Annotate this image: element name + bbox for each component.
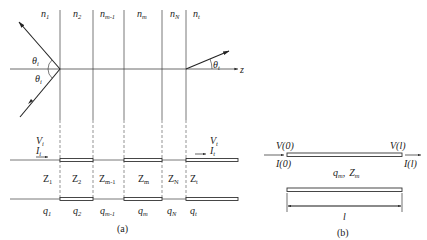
caption-a: (a) bbox=[117, 223, 128, 235]
svg-text:q1: q1 bbox=[43, 205, 51, 217]
diagram-canvas: z θi θi θt n1 n2 nm-1 nm nN nt bbox=[0, 0, 427, 240]
b-right-voltage: V(l) bbox=[390, 140, 406, 152]
svg-text:nt: nt bbox=[193, 8, 200, 20]
transmitted-ray bbox=[186, 51, 229, 69]
svg-text:qN: qN bbox=[167, 205, 177, 217]
z-axis-label: z bbox=[239, 64, 244, 75]
b-length-dimension bbox=[287, 193, 402, 212]
b-bottom-conductor bbox=[287, 188, 402, 192]
input-current-label: Ii bbox=[35, 145, 41, 157]
svg-text:Z1: Z1 bbox=[43, 173, 52, 185]
svg-text:nN: nN bbox=[170, 8, 180, 20]
incident-ray bbox=[20, 69, 60, 117]
svg-text:qm: qm bbox=[138, 205, 148, 217]
theta-transmitted-label: θt bbox=[213, 59, 220, 71]
b-left-voltage: V(0) bbox=[276, 140, 294, 152]
angle-arc-reflected bbox=[48, 60, 52, 69]
angle-arc-incident bbox=[48, 69, 52, 78]
refractive-index-labels: n1 n2 nm-1 nm nN nt bbox=[41, 8, 200, 20]
svg-text:ZN: ZN bbox=[168, 173, 179, 185]
svg-text:qt: qt bbox=[190, 205, 197, 217]
b-section-params: qm,Zm bbox=[333, 167, 360, 179]
thin-line-sections bbox=[10, 160, 186, 199]
svg-text:nm: nm bbox=[137, 8, 147, 20]
svg-text:qm-1: qm-1 bbox=[100, 205, 115, 217]
b-top-conductor bbox=[287, 153, 402, 157]
b-left-current: I(0) bbox=[275, 158, 292, 170]
svg-text:n2: n2 bbox=[73, 8, 82, 20]
reflected-ray bbox=[19, 22, 60, 69]
svg-text:Zt: Zt bbox=[190, 173, 198, 185]
theta-reflected-label: θi bbox=[32, 55, 39, 67]
svg-text:nm-1: nm-1 bbox=[100, 8, 115, 20]
b-right-current: I(l) bbox=[403, 158, 417, 170]
svg-text:q2: q2 bbox=[73, 205, 82, 217]
theta-incident-label: θi bbox=[35, 73, 42, 85]
svg-text:n1: n1 bbox=[41, 8, 49, 20]
layer-boundaries bbox=[60, 10, 186, 120]
caption-b: (b) bbox=[337, 227, 349, 239]
output-current-label: It bbox=[209, 145, 215, 157]
svg-text:Zm-1: Zm-1 bbox=[99, 173, 116, 185]
b-length-label: l bbox=[343, 211, 346, 222]
svg-text:Zm: Zm bbox=[138, 173, 149, 185]
propagation-constant-labels: q1 q2 qm-1 qm qN qt bbox=[43, 205, 197, 217]
angle-arc-transmitted bbox=[210, 59, 212, 69]
svg-text:Z2: Z2 bbox=[72, 173, 81, 185]
impedance-labels: Z1 Z2 Zm-1 Zm ZN Zt bbox=[43, 173, 198, 185]
